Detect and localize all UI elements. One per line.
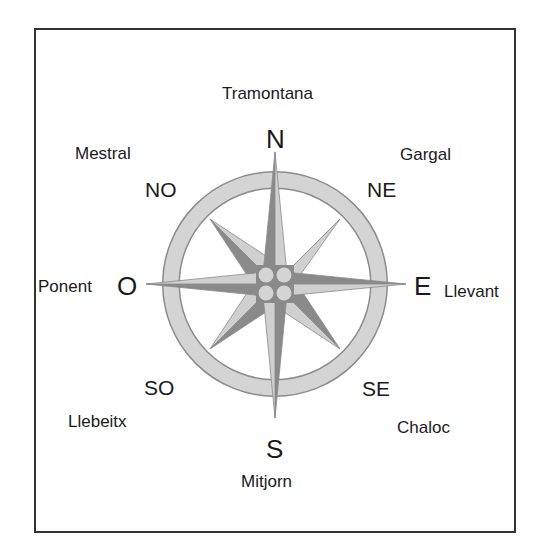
- wind-mestral-label: Mestral: [75, 145, 131, 162]
- wind-gargal-label: Gargal: [400, 146, 451, 163]
- wind-llebeitx-label: Llebeitx: [68, 413, 127, 430]
- cardinal-west-label: O: [117, 273, 137, 299]
- intercardinal-northeast-label: NE: [367, 179, 396, 200]
- wind-ponent-label: Ponent: [38, 278, 92, 295]
- intercardinal-southeast-label: SE: [362, 378, 390, 399]
- wind-llevant-label: Llevant: [444, 283, 499, 300]
- wind-mitjorn-label: Mitjorn: [241, 473, 292, 490]
- cardinal-south-label: S: [266, 436, 283, 462]
- cardinal-north-label: N: [266, 126, 285, 152]
- cardinal-east-label: E: [414, 273, 431, 299]
- wind-chaloc-label: Chaloc: [397, 419, 450, 436]
- intercardinal-southwest-label: SO: [144, 377, 174, 398]
- compass-hub: [256, 265, 294, 303]
- wind-tramontana-label: Tramontana: [222, 85, 313, 102]
- intercardinal-northwest-label: NO: [145, 179, 177, 200]
